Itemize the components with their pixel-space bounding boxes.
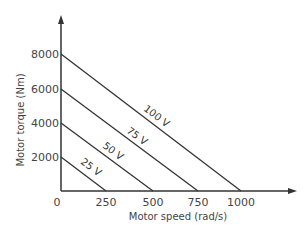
x-tick-0: 0 (54, 196, 61, 209)
series-label-25v: 25 V (79, 156, 104, 179)
y-tick-4000: 4000 (31, 117, 59, 130)
chart: 8000 6000 4000 2000 0 250 500 750 1000 M… (0, 0, 307, 233)
y-axis-arrow-icon (58, 15, 64, 24)
y-tick-6000: 6000 (31, 83, 59, 96)
y-tick-8000: 8000 (31, 48, 59, 61)
series-label-100v: 100 V (142, 103, 172, 129)
x-axis-title: Motor speed (rad/s) (129, 211, 228, 222)
x-tick-500: 500 (143, 196, 164, 209)
x-tick-750: 750 (188, 196, 209, 209)
series-75v (61, 89, 198, 191)
x-axis-arrow-icon (288, 188, 297, 194)
series-label-75v: 75 V (125, 125, 150, 148)
series-label-50v: 50 V (101, 140, 126, 163)
y-tick-2000: 2000 (31, 151, 59, 164)
x-tick-1000: 1000 (227, 196, 255, 209)
y-axis-title: Motor torque (Nm) (15, 73, 26, 166)
x-tick-250: 250 (96, 196, 117, 209)
